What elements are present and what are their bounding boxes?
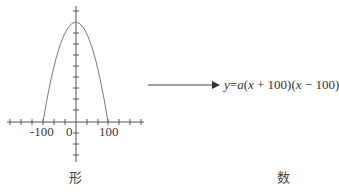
arrow — [148, 81, 220, 89]
formula-text: y=a(x + 100)(x − 100) — [224, 77, 339, 93]
formula-plus: + 100) — [254, 77, 292, 92]
x-tick-label-0: 0 — [66, 124, 73, 140]
formula-caption: 数 — [277, 167, 290, 186]
graph-caption: 形 — [69, 167, 82, 186]
formula-minus: − 100) — [302, 77, 339, 92]
y-axis — [73, 6, 79, 162]
x-tick-label-neg100: -100 — [30, 124, 54, 140]
x-tick-label-100: 100 — [99, 124, 119, 140]
